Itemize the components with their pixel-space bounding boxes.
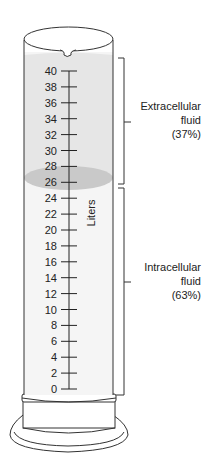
axis-label-liters: Liters <box>85 199 97 226</box>
scale-tick-label: 22 <box>45 208 57 220</box>
intracellular-percent: (63%) <box>144 288 201 302</box>
scale-tick-label: 24 <box>45 192 57 204</box>
intracellular-bracket <box>116 188 131 395</box>
scale-tick-label: 12 <box>45 288 57 300</box>
scale-tick-label: 6 <box>51 335 57 347</box>
graduated-cylinder-diagram: 0246810121416182022242628303234363840 Li… <box>0 0 207 467</box>
scale-tick-label: 38 <box>45 81 57 93</box>
extracellular-label: Extracellular fluid (37%) <box>140 99 201 141</box>
scale-tick-label: 26 <box>45 176 57 188</box>
scale-tick-label: 36 <box>45 97 57 109</box>
scale-tick-label: 18 <box>45 240 57 252</box>
extracellular-percent: (37%) <box>140 127 201 141</box>
scale-tick-label: 2 <box>51 367 57 379</box>
intracellular-label: Intracellular fluid (63%) <box>144 260 201 302</box>
scale-tick-label: 10 <box>45 304 57 316</box>
extracellular-line1: Extracellular <box>140 99 201 113</box>
scale-tick-label: 28 <box>45 160 57 172</box>
extracellular-line2: fluid <box>140 113 201 127</box>
cylinder-base <box>10 394 128 452</box>
intracellular-line2: fluid <box>144 274 201 288</box>
cylinder-rim <box>24 27 113 51</box>
scale-tick-label: 14 <box>45 272 57 284</box>
scale-tick-label: 40 <box>45 65 57 77</box>
intracellular-line1: Intracellular <box>144 260 201 274</box>
scale-tick-label: 34 <box>45 113 57 125</box>
scale-tick-label: 0 <box>51 383 57 395</box>
scale-tick-label: 20 <box>45 224 57 236</box>
scale-tick-label: 30 <box>45 145 57 157</box>
scale-tick-label: 16 <box>45 256 57 268</box>
scale-tick-label: 4 <box>51 351 57 363</box>
scale-tick-label: 8 <box>51 319 57 331</box>
scale-tick-label: 32 <box>45 129 57 141</box>
extracellular-bracket <box>118 58 131 184</box>
